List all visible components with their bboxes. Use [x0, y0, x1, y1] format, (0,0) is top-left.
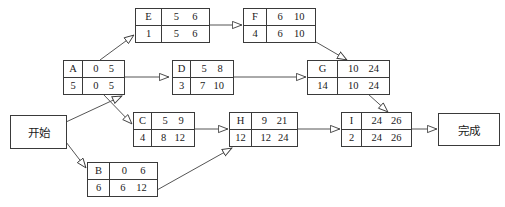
node-c-early-start: 5 — [162, 116, 167, 127]
node-b-early-finish: 6 — [140, 166, 145, 177]
edge-g-i — [368, 94, 388, 112]
node-e-late-start: 5 — [174, 29, 179, 40]
node-g-duration: 14 — [308, 78, 338, 94]
node-e-name: E — [136, 9, 162, 25]
node-e-late-row: 1 5 6 — [136, 26, 209, 42]
node-e-early-finish: 6 — [192, 12, 197, 23]
node-c-early-times: 5 9 — [152, 113, 194, 129]
node-h-late-times: 12 24 — [252, 130, 297, 146]
finish-node[interactable]: 完成 — [438, 113, 500, 146]
node-d-early-row: D 5 8 — [173, 61, 233, 78]
node-h-late-finish: 24 — [278, 133, 289, 144]
node-a-late-row: 5 0 5 — [64, 78, 124, 94]
node-h-late-start: 12 — [261, 133, 272, 144]
node-d-name: D — [173, 61, 191, 77]
node-a-early-finish: 5 — [109, 64, 114, 75]
node-h-early-start: 9 — [262, 116, 267, 127]
node-h-duration: 12 — [230, 130, 252, 146]
node-h-early-row: H 9 21 — [230, 113, 297, 130]
node-b-late-start: 6 — [120, 183, 125, 194]
node-d[interactable]: D 5 8 3 7 10 — [172, 60, 234, 95]
node-f-late-start: 6 — [278, 29, 283, 40]
node-f-early-row: F 6 10 — [244, 9, 315, 26]
node-a-early-row: A 0 5 — [64, 61, 124, 78]
node-d-late-finish: 10 — [213, 81, 224, 92]
node-b-late-row: 6 6 12 — [88, 180, 157, 196]
node-e-early-row: E 5 6 — [136, 9, 209, 26]
node-h-early-finish: 21 — [277, 116, 288, 127]
node-h-name: H — [230, 113, 252, 129]
node-g-late-row: 14 10 24 — [308, 78, 389, 94]
node-b-early-start: 0 — [122, 166, 127, 177]
node-g-name: G — [308, 61, 338, 77]
node-a-name: A — [64, 61, 83, 77]
node-c-duration: 4 — [134, 130, 152, 146]
node-c-early-finish: 9 — [178, 116, 183, 127]
node-d-late-row: 3 7 10 — [173, 78, 233, 94]
edge-start-a — [66, 96, 122, 122]
node-h-late-row: 12 12 24 — [230, 130, 297, 146]
node-c-late-row: 4 8 12 — [134, 130, 194, 146]
node-c-late-times: 8 12 — [152, 130, 194, 146]
node-h[interactable]: H 9 21 12 12 24 — [229, 112, 298, 147]
edge-f-g — [316, 42, 347, 60]
node-i-late-finish: 26 — [391, 133, 402, 144]
finish-node-label: 完成 — [458, 122, 480, 138]
node-b-early-row: B 0 6 — [88, 163, 157, 180]
edge-a-e — [100, 35, 134, 60]
node-h-early-times: 9 21 — [252, 113, 297, 129]
node-e[interactable]: E 5 6 1 5 6 — [135, 8, 210, 43]
node-e-duration: 1 — [136, 26, 162, 42]
node-g-early-row: G 10 24 — [308, 61, 389, 78]
edge-start-b — [66, 142, 86, 168]
node-d-duration: 3 — [173, 78, 191, 94]
node-e-late-finish: 6 — [192, 29, 197, 40]
node-f-name: F — [244, 9, 267, 25]
edge-b-h — [157, 148, 232, 190]
node-d-early-times: 5 8 — [191, 61, 233, 77]
node-f-early-start: 6 — [278, 12, 283, 23]
node-c-late-finish: 12 — [174, 133, 185, 144]
node-b-late-times: 6 12 — [110, 180, 157, 196]
node-i-late-row: 2 24 26 — [342, 130, 411, 146]
node-f-early-times: 6 10 — [267, 9, 315, 25]
node-f[interactable]: F 6 10 4 6 10 — [243, 8, 316, 43]
node-e-late-times: 5 6 — [162, 26, 209, 42]
node-a-early-times: 0 5 — [83, 61, 124, 77]
node-c-early-row: C 5 9 — [134, 113, 194, 130]
node-c[interactable]: C 5 9 4 8 12 — [133, 112, 195, 147]
node-g-late-start: 10 — [348, 81, 359, 92]
node-g-early-start: 10 — [348, 64, 359, 75]
start-node-label: 开始 — [28, 124, 50, 140]
node-i-late-start: 24 — [372, 133, 383, 144]
node-i[interactable]: I 24 26 2 24 26 — [341, 112, 412, 147]
node-d-late-times: 7 10 — [191, 78, 233, 94]
node-d-late-start: 7 — [200, 81, 205, 92]
node-b-name: B — [88, 163, 110, 179]
node-i-duration: 2 — [342, 130, 362, 146]
node-a-late-times: 0 5 — [83, 78, 124, 94]
node-d-early-start: 5 — [201, 64, 206, 75]
node-i-early-finish: 26 — [391, 116, 402, 127]
node-i-late-times: 24 26 — [362, 130, 411, 146]
node-d-early-finish: 8 — [217, 64, 222, 75]
node-b-duration: 6 — [88, 180, 110, 196]
node-i-early-row: I 24 26 — [342, 113, 411, 130]
node-a-early-start: 0 — [93, 64, 98, 75]
network-diagram: 开始 A 0 5 5 0 5 B 0 6 6 — [0, 0, 505, 207]
node-g-early-finish: 24 — [369, 64, 380, 75]
node-b-early-times: 0 6 — [110, 163, 157, 179]
start-node[interactable]: 开始 — [10, 115, 67, 149]
node-g-early-times: 10 24 — [338, 61, 389, 77]
node-i-name: I — [342, 113, 362, 129]
node-a-duration: 5 — [64, 78, 83, 94]
node-a[interactable]: A 0 5 5 0 5 — [63, 60, 125, 95]
node-f-early-finish: 10 — [294, 12, 305, 23]
node-c-name: C — [134, 113, 152, 129]
node-f-duration: 4 — [244, 26, 267, 42]
node-g-late-times: 10 24 — [338, 78, 389, 94]
node-a-late-finish: 5 — [109, 81, 114, 92]
node-b[interactable]: B 0 6 6 6 12 — [87, 162, 158, 197]
node-g[interactable]: G 10 24 14 10 24 — [307, 60, 390, 95]
node-f-late-finish: 10 — [294, 29, 305, 40]
